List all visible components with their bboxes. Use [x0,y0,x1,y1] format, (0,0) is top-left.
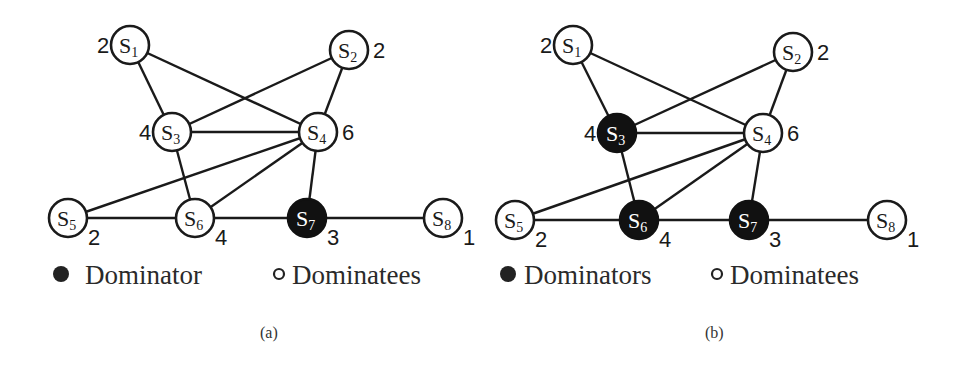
degree-label: 2 [817,40,829,65]
node-s4: S46 [299,113,354,151]
degree-label: 3 [327,225,339,250]
node-s5: S52 [496,201,547,252]
node-s1: S12 [97,26,149,64]
legend-dominatee-label: Dominatees [730,260,859,290]
degree-label: 2 [88,225,100,250]
legend: DominatorsDominatees [500,260,859,290]
panel-caption: (a) [260,324,278,342]
node-s6: S64 [620,201,671,252]
legend-dominatee-label: Dominatees [292,260,421,290]
node-s1: S12 [540,26,592,64]
degree-label: 4 [659,227,671,252]
legend: DominatorDominatees [53,260,421,290]
node-s7: S73 [288,199,339,250]
node-s3: S34 [584,114,636,152]
degree-label: 6 [787,121,799,146]
node-s8: S81 [424,199,475,250]
node-s8: S81 [868,201,919,252]
legend-dominator-label: Dominator [85,260,202,290]
node-s4: S46 [744,114,799,152]
degree-label: 2 [97,33,109,58]
degree-label: 1 [907,227,919,252]
legend-dominator-label: Dominators [524,260,652,290]
degree-label: 2 [540,33,552,58]
edges [515,45,887,220]
dominating-set-figure: S12S22S34S46S52S64S73S81DominatorDominat… [0,0,964,375]
hollow-circle-icon [274,269,284,279]
node-s2: S22 [774,33,829,71]
filled-circle-icon [500,266,516,282]
panel-b: S12S22S34S46S52S64S73S81DominatorsDomina… [496,26,919,342]
panel-caption: (b) [705,324,724,342]
degree-label: 3 [769,227,781,252]
filled-circle-icon [53,266,69,282]
edge-s1-s4 [573,45,763,133]
degree-label: 4 [584,121,596,146]
hollow-circle-icon [712,269,722,279]
node-s5: S52 [49,199,100,250]
panel-a: S12S22S34S46S52S64S73S81DominatorDominat… [49,26,475,342]
node-s2: S22 [330,31,385,69]
degree-label: 2 [373,38,385,63]
degree-label: 6 [342,120,354,145]
edges [68,45,443,218]
node-s7: S73 [730,201,781,252]
node-s6: S64 [176,199,227,250]
node-s3: S34 [139,113,191,151]
degree-label: 1 [463,225,475,250]
degree-label: 2 [535,227,547,252]
degree-label: 4 [139,120,151,145]
degree-label: 4 [215,225,227,250]
